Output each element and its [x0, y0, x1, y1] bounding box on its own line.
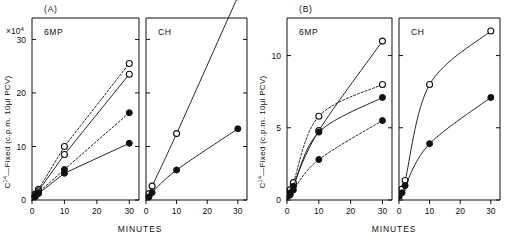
x-tick-label: 10 [60, 206, 70, 216]
data-point-filled-circle [149, 190, 155, 196]
subpanel-title-6mp: 6MP [44, 27, 63, 37]
x-tick-label: 30 [486, 206, 496, 216]
origin-marker-cluster [398, 195, 402, 199]
data-point-filled-circle [427, 141, 433, 147]
x-tick-label: 0 [30, 206, 35, 216]
x-tick-label: 0 [285, 206, 290, 216]
x-tick-label: 30 [233, 206, 243, 216]
x-tick-label: 10 [425, 206, 435, 216]
y-tick-label: 10 [272, 51, 282, 61]
data-point-filled-circle [379, 118, 385, 124]
y-tick-label: 10 [17, 142, 27, 152]
y-tick-label: 20 [17, 88, 27, 98]
data-point-filled-circle [126, 110, 132, 116]
x-axis-title-b: MINUTES [372, 224, 417, 234]
data-point-filled-circle [290, 187, 296, 193]
subpanel-title-6mp: 6MP [299, 27, 318, 37]
data-point-open-circle [379, 38, 385, 44]
data-point-open-circle [427, 81, 433, 87]
group-label-b: (B) [299, 4, 313, 14]
x-tick-label: 10 [314, 206, 324, 216]
data-point-filled-circle [316, 129, 322, 135]
y-axis-title-b: C14—Fixed (c.p.m. 10µl PCV) [257, 75, 267, 188]
data-point-filled-circle [61, 170, 67, 176]
figure-root: 010203001020306MP0102030CH010203005106MP… [0, 0, 506, 239]
origin-marker-cluster [145, 195, 149, 199]
data-point-open-circle [61, 143, 67, 149]
data-point-filled-circle [174, 167, 180, 173]
data-point-filled-circle [35, 191, 41, 197]
origin-marker-cluster [286, 195, 290, 199]
figure-canvas: 010203001020306MP0102030CH010203005106MP… [0, 0, 506, 239]
x-tick-label: 20 [202, 206, 212, 216]
data-point-open-circle [126, 61, 132, 67]
x-tick-label: 30 [125, 206, 135, 216]
origin-marker-cluster [31, 195, 35, 199]
data-point-open-circle [174, 131, 180, 137]
x-axis-title-a: MINUTES [118, 224, 163, 234]
data-point-open-circle [126, 71, 132, 77]
subpanel-title-ch: CH [411, 27, 424, 37]
x-tick-label: 0 [144, 206, 149, 216]
group-label-a: (A) [44, 4, 58, 14]
x-tick-label: 30 [378, 206, 388, 216]
data-point-open-circle [61, 152, 67, 158]
data-point-open-circle [488, 28, 494, 34]
data-point-filled-circle [126, 140, 132, 146]
x-tick-label: 20 [346, 206, 356, 216]
y-tick-label: 0 [276, 195, 281, 205]
x-tick-label: 20 [455, 206, 465, 216]
data-point-filled-circle [379, 94, 385, 100]
data-point-filled-circle [402, 183, 408, 189]
data-point-filled-circle [488, 94, 494, 100]
y-tick-label: 30 [17, 35, 27, 45]
x-tick-label: 20 [92, 206, 102, 216]
x-tick-label: 0 [397, 206, 402, 216]
subpanel-title-ch: CH [158, 27, 171, 37]
y-tick-label: 5 [276, 123, 281, 133]
data-point-open-circle [316, 113, 322, 119]
y-axis-title-a: C14—Fixed (c.p.m. 10µl PCV) [2, 75, 12, 188]
data-point-open-circle [149, 183, 155, 189]
data-point-filled-circle [235, 126, 241, 132]
y-tick-label: 0 [21, 195, 26, 205]
data-point-open-circle [379, 81, 385, 87]
data-point-filled-circle [316, 157, 322, 163]
x-tick-label: 10 [172, 206, 182, 216]
